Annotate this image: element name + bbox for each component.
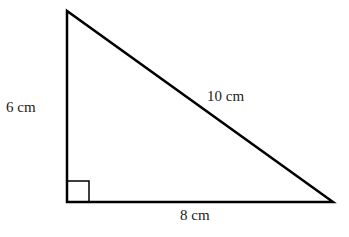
horizontal-side-label: 8 cm xyxy=(180,207,210,224)
triangle-diagram xyxy=(0,0,349,237)
right-triangle xyxy=(67,11,333,202)
vertical-side-label: 6 cm xyxy=(6,99,36,116)
hypotenuse-label: 10 cm xyxy=(207,88,244,105)
right-angle-marker xyxy=(67,181,89,202)
